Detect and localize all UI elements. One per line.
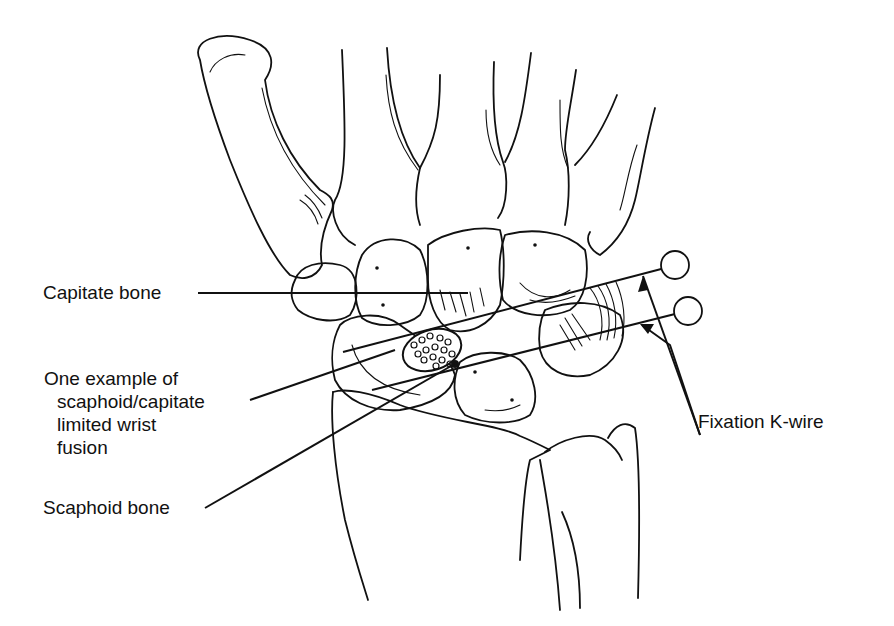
metacarpals — [333, 48, 655, 255]
label-capitate-bone: Capitate bone — [43, 281, 161, 305]
thumb-metacarpal — [198, 36, 333, 278]
leader-lines — [198, 276, 700, 508]
label-fixation-k-wire: Fixation K-wire — [698, 410, 824, 434]
wrist-fusion-diagram: Capitate bone One example of scaphoid/ca… — [0, 0, 894, 626]
k-wires — [343, 251, 702, 390]
k-wire-head-upper — [661, 251, 689, 279]
wrist-illustration — [0, 0, 894, 626]
k-wire-head-lower — [674, 297, 702, 325]
label-fusion-line4: fusion — [57, 436, 108, 460]
label-fusion-line2: scaphoid/capitate — [57, 390, 205, 414]
label-fusion-line3: limited wrist — [57, 413, 156, 437]
forearm-bones — [332, 391, 639, 610]
label-fusion-line1: One example of — [44, 367, 178, 391]
label-scaphoid-bone: Scaphoid bone — [43, 496, 170, 520]
